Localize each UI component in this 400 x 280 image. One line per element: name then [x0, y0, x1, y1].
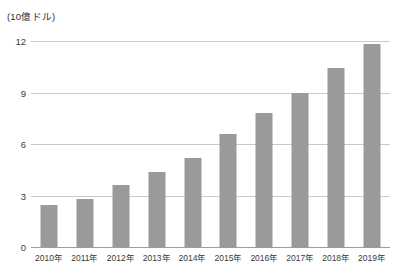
- bar: [112, 185, 129, 247]
- bar: [364, 44, 381, 247]
- x-tick-label: 2015年: [211, 251, 247, 263]
- x-tick-label: 2013年: [139, 251, 175, 263]
- y-tick-label-6: 6: [4, 139, 26, 150]
- bar-chart: (10億ドル) 036912 2010年2011年2012年2013年2014年…: [0, 0, 400, 280]
- y-tick-label-0: 0: [4, 242, 26, 253]
- x-tick-label: 2016年: [246, 251, 282, 263]
- y-tick-label-12: 12: [4, 36, 26, 47]
- bar-slot: [318, 41, 354, 247]
- bar: [40, 205, 57, 247]
- bars-layer: [31, 41, 390, 247]
- gridline-0: [31, 247, 390, 248]
- bar: [328, 68, 345, 247]
- bar-slot: [211, 41, 247, 247]
- bar-slot: [282, 41, 318, 247]
- bar: [76, 199, 93, 247]
- y-tick-label-9: 9: [4, 87, 26, 98]
- bar-slot: [175, 41, 211, 247]
- bar: [184, 158, 201, 247]
- x-tick-label: 2011年: [67, 251, 103, 263]
- unit-caption: (10億ドル): [7, 9, 55, 23]
- bar-slot: [354, 41, 390, 247]
- x-tick-label: 2018年: [318, 251, 354, 263]
- bar: [292, 93, 309, 248]
- bar-slot: [103, 41, 139, 247]
- x-tick-label: 2012年: [103, 251, 139, 263]
- x-axis-tick-labels: 2010年2011年2012年2013年2014年2015年2016年2017年…: [31, 251, 390, 269]
- x-tick-label: 2014年: [175, 251, 211, 263]
- bar-slot: [31, 41, 67, 247]
- plot-area: [31, 41, 390, 247]
- x-tick-label: 2010年: [31, 251, 67, 263]
- bar: [256, 113, 273, 247]
- x-tick-label: 2017年: [282, 251, 318, 263]
- bar-slot: [246, 41, 282, 247]
- x-tick-label: 2019年: [354, 251, 390, 263]
- bar-slot: [139, 41, 175, 247]
- bar-slot: [67, 41, 103, 247]
- y-tick-label-3: 3: [4, 190, 26, 201]
- bar: [148, 172, 165, 247]
- bar: [220, 134, 237, 247]
